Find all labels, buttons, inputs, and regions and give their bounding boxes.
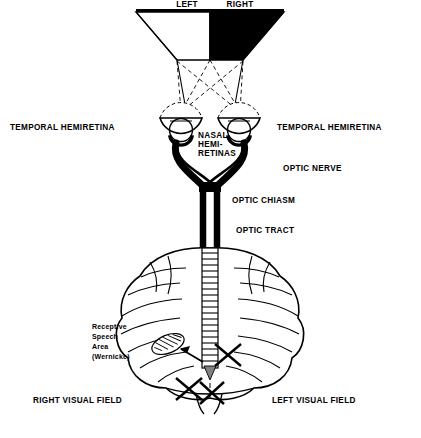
label-temporal-hemiretina-left: TEMPORAL HEMIRETINA	[10, 123, 115, 132]
label-left-visual-field: LEFT VISUAL FIELD	[272, 396, 356, 405]
label-optic-nerve: OPTIC NERVE	[283, 164, 342, 173]
visual-field-right-half	[210, 12, 284, 60]
label-wernicke-line2: Speech	[92, 333, 118, 341]
optic-radiation-tract	[202, 248, 218, 380]
visual-pathway-diagram: LEFT RIGHT	[0, 0, 421, 438]
label-optic-chiasm: OPTIC CHIASM	[232, 196, 295, 205]
diagram-canvas: LEFT RIGHT	[0, 0, 421, 438]
left-eye	[160, 103, 202, 146]
label-nasal-line1: NASAL	[198, 131, 228, 140]
visual-field-left-half	[136, 12, 210, 60]
label-right-visual-field: RIGHT VISUAL FIELD	[33, 396, 122, 405]
label-nasal-line3: RETINAS	[198, 149, 236, 158]
label-wernicke-line1: Receptive	[92, 323, 127, 331]
field-label-left: LEFT	[176, 0, 198, 9]
label-optic-tract: OPTIC TRACT	[236, 226, 294, 235]
label-wernicke-line4: (Wernicke)	[92, 353, 130, 361]
label-nasal-line2: HEMI-	[198, 140, 223, 149]
label-wernicke-line3: Area	[92, 343, 108, 350]
optic-chiasm-body	[199, 182, 221, 192]
label-temporal-hemiretina-right: TEMPORAL HEMIRETINA	[277, 123, 382, 132]
field-label-right: RIGHT	[227, 0, 254, 9]
